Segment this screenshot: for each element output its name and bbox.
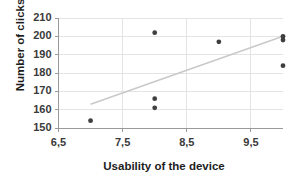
x-tick-label: 6,5 [44,136,74,148]
gridlines [59,18,284,128]
data-point [152,96,157,101]
y-tick-label: 150 [20,121,52,133]
x-tick-label: 7,5 [108,136,138,148]
data-point [216,39,221,44]
tick-marks [55,18,251,132]
data-point [88,118,93,123]
x-tick-label: 9,5 [236,136,266,148]
data-point [281,38,286,43]
data-point [152,30,157,35]
y-axis-title: Number of clicks [14,0,26,101]
y-tick-label: 160 [20,103,52,115]
data-point [281,63,286,68]
scatter-chart: 150160170180190200210 6,57,58,59,5 Numbe… [0,0,289,181]
x-tick-label: 8,5 [172,136,202,148]
data-point [152,105,157,110]
x-axis-title: Usability of the device [48,160,280,172]
